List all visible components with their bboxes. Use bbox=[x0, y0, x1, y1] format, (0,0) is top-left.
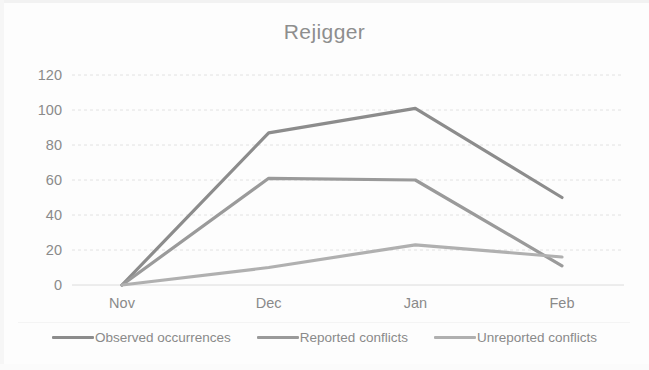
legend-color-swatch bbox=[257, 336, 299, 339]
y-axis-tick-label: 100 bbox=[38, 102, 62, 118]
series-line-reported-conflicts bbox=[122, 178, 562, 285]
legend-entry[interactable]: Unreported conflicts bbox=[434, 330, 597, 345]
series-line-unreported-conflicts bbox=[122, 245, 562, 285]
legend-entry[interactable]: Observed occurrences bbox=[52, 330, 231, 345]
legend-label: Reported conflicts bbox=[300, 330, 408, 345]
x-axis-tick-label: Feb bbox=[550, 295, 575, 311]
line-chart-plot: 020406080100120 NovDecJanFeb bbox=[0, 0, 649, 330]
x-axis-tick-label: Nov bbox=[109, 295, 136, 311]
y-axis-tick-labels: 020406080100120 bbox=[38, 67, 62, 293]
x-axis-tick-label: Jan bbox=[404, 295, 427, 311]
legend-entry[interactable]: Reported conflicts bbox=[257, 330, 408, 345]
y-axis-tick-label: 40 bbox=[46, 207, 62, 223]
y-axis-tick-label: 80 bbox=[46, 137, 62, 153]
legend-label: Unreported conflicts bbox=[477, 330, 597, 345]
y-axis-tick-label: 20 bbox=[46, 242, 62, 258]
series-line-observed-occurrences bbox=[122, 108, 562, 285]
scan-edge-bottom bbox=[0, 364, 649, 370]
legend-divider bbox=[18, 322, 630, 323]
y-axis-tick-label: 0 bbox=[54, 277, 62, 293]
x-axis-tick-label: Dec bbox=[256, 295, 282, 311]
x-axis-tick-labels: NovDecJanFeb bbox=[109, 295, 574, 311]
data-series-group bbox=[122, 108, 562, 285]
legend-label: Observed occurrences bbox=[95, 330, 231, 345]
chart-card: Rejigger 020406080100120 NovDecJanFeb Ob… bbox=[0, 0, 649, 370]
chart-legend: Observed occurrencesReported conflictsUn… bbox=[0, 330, 649, 345]
legend-color-swatch bbox=[52, 336, 94, 339]
legend-color-swatch bbox=[434, 336, 476, 339]
y-axis-tick-label: 120 bbox=[38, 67, 62, 83]
y-axis-tick-label: 60 bbox=[46, 172, 62, 188]
